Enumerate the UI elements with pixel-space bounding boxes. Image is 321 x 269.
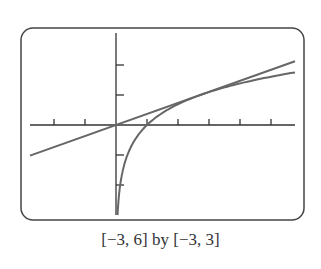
graph [0,0,321,269]
window-caption: [−3, 6] by [−3, 3] [0,230,321,250]
calculator-screen-frame [21,28,304,220]
